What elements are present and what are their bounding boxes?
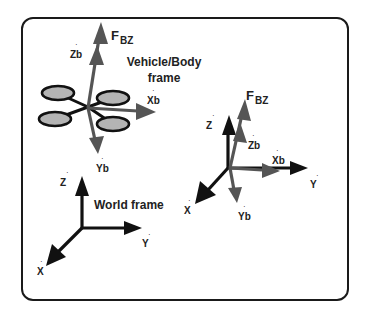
combined-yb-label: Yb <box>238 211 251 222</box>
world-frame-title: World frame <box>94 198 164 212</box>
vehicle-frame-title-line1: Vehicle/Body <box>127 55 202 69</box>
combined-x-label: X <box>184 205 191 216</box>
combined-z-label: Z <box>206 120 212 131</box>
world-y-label-dot: · <box>148 230 151 239</box>
body-y-label-dot: · <box>101 154 104 163</box>
propeller-front-left <box>42 86 74 100</box>
combined-force-label-sub: BZ <box>255 95 268 106</box>
combined-y-label-dot: · <box>316 171 319 180</box>
coordinate-frames-diagram: Zb · F BZ Vehicle/Body frame Xb · Yb · Z… <box>0 0 366 316</box>
world-x-label-dot: · <box>40 257 43 266</box>
body-y-label: Yb <box>96 163 109 174</box>
body-z-label-dot: · <box>75 40 78 49</box>
combined-z-label-dot: · <box>212 111 215 120</box>
combined-y-label: Y <box>310 179 317 190</box>
combined-xb-label: Xb <box>272 155 285 166</box>
combined-xb-label-dot: · <box>276 146 279 155</box>
combined-zb-label: Zb <box>248 140 260 151</box>
force-label-sub: BZ <box>120 35 133 46</box>
world-z-label: Z <box>60 177 66 188</box>
propeller-rear-left <box>39 112 71 126</box>
body-x-label-dot: · <box>152 86 155 95</box>
combined-zb-label-dot: · <box>252 131 255 140</box>
propeller-rear-right <box>97 117 129 131</box>
combined-yb-label-dot: · <box>243 202 246 211</box>
world-z-label-dot: · <box>66 168 69 177</box>
body-x-label: Xb <box>147 95 160 106</box>
world-y-label: Y <box>142 238 149 249</box>
force-label-main: F <box>111 28 119 43</box>
body-z-label: Zb <box>70 49 82 60</box>
vehicle-frame-title-line2: frame <box>148 71 181 85</box>
world-x-label: X <box>37 266 44 277</box>
propeller-front-right <box>97 91 129 105</box>
combined-x-label-dot: · <box>188 196 191 205</box>
combined-force-label-main: F <box>246 88 254 103</box>
